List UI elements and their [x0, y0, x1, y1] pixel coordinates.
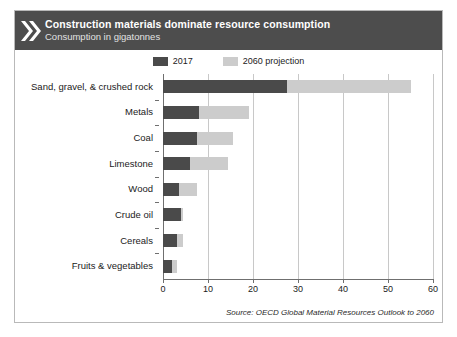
- x-tick-label-50: 50: [383, 284, 393, 294]
- bar-row: [163, 157, 228, 170]
- x-tick-label-60: 60: [428, 284, 438, 294]
- bar-segment-2017: [163, 208, 181, 221]
- legend-label-2017: 2017: [173, 56, 193, 66]
- double-chevron-right-icon: [15, 11, 45, 50]
- x-tick-mark-20: [253, 279, 254, 283]
- bar-row: [163, 132, 233, 145]
- y-axis-label: Coal: [133, 132, 153, 143]
- header-text-block: Construction materials dominate resource…: [45, 19, 330, 42]
- y-axis-label: Sand, gravel, & crushed rock: [31, 81, 153, 92]
- y-tick-mark: [155, 151, 159, 152]
- legend-swatch-2060-projection: [223, 57, 238, 66]
- x-tick-mark-60: [433, 279, 434, 283]
- legend-swatch-2017: [153, 57, 168, 66]
- bar-segment-2017: [163, 157, 190, 170]
- gridline-60: [433, 74, 434, 279]
- y-tick-mark: [155, 202, 159, 203]
- x-tick-label-0: 0: [160, 284, 165, 294]
- bar-row: [163, 234, 183, 247]
- bar-segment-2060-projection: [199, 106, 249, 119]
- plot-area: [163, 74, 433, 279]
- y-axis-label: Wood: [128, 183, 153, 194]
- y-axis-label: Crude oil: [115, 209, 153, 220]
- bar-row: [163, 80, 411, 93]
- bar-row: [163, 106, 249, 119]
- x-tick-label-10: 10: [203, 284, 213, 294]
- bar-segment-2017: [163, 234, 177, 247]
- y-tick-mark: [155, 125, 159, 126]
- legend-item-2017: 2017: [153, 56, 193, 66]
- bar-series-group: [163, 74, 433, 279]
- y-axis-label: Fruits & vegetables: [72, 260, 153, 271]
- bar-segment-2060-projection: [190, 157, 228, 170]
- bar-segment-2060-projection: [197, 132, 233, 145]
- bar-row: [163, 208, 183, 221]
- chart-card: Construction materials dominate resource…: [14, 10, 443, 323]
- bar-segment-2060-projection: [287, 80, 411, 93]
- y-axis-label: Cereals: [120, 235, 153, 246]
- bar-segment-2060-projection: [177, 234, 184, 247]
- x-tick-mark-10: [208, 279, 209, 283]
- legend-item-2060-projection: 2060 projection: [223, 56, 305, 66]
- y-axis-labels: Sand, gravel, & crushed rockMetalsCoalLi…: [15, 74, 159, 279]
- page-title: Construction materials dominate resource…: [45, 19, 330, 31]
- y-axis-label: Metals: [125, 106, 153, 117]
- x-tick-mark-50: [388, 279, 389, 283]
- source-note: Source: OECD Global Material Resources O…: [226, 308, 434, 317]
- x-tick-label-20: 20: [248, 284, 258, 294]
- y-axis-label: Limestone: [109, 158, 153, 169]
- y-tick-mark: [155, 177, 159, 178]
- chart-header: Construction materials dominate resource…: [15, 11, 442, 50]
- chart-plot: Sand, gravel, & crushed rockMetalsCoalLi…: [15, 71, 444, 324]
- bar-segment-2017: [163, 260, 172, 273]
- x-tick-mark-40: [343, 279, 344, 283]
- bar-segment-2060-projection: [172, 260, 177, 273]
- bar-segment-2017: [163, 132, 197, 145]
- bar-segment-2060-projection: [181, 208, 183, 221]
- y-tick-mark: [155, 228, 159, 229]
- bar-row: [163, 183, 197, 196]
- y-tick-mark: [155, 100, 159, 101]
- bar-row: [163, 260, 177, 273]
- page-subtitle: Consumption in gigatonnes: [45, 32, 330, 43]
- x-tick-label-40: 40: [338, 284, 348, 294]
- bar-segment-2017: [163, 183, 179, 196]
- x-tick-label-30: 30: [293, 284, 303, 294]
- bar-segment-2017: [163, 80, 287, 93]
- bar-segment-2017: [163, 106, 199, 119]
- y-tick-mark: [155, 253, 159, 254]
- chart-legend: 2017 2060 projection: [15, 53, 442, 69]
- legend-label-2060-projection: 2060 projection: [243, 56, 305, 66]
- bar-segment-2060-projection: [179, 183, 197, 196]
- x-tick-mark-0: [163, 279, 164, 283]
- x-tick-mark-30: [298, 279, 299, 283]
